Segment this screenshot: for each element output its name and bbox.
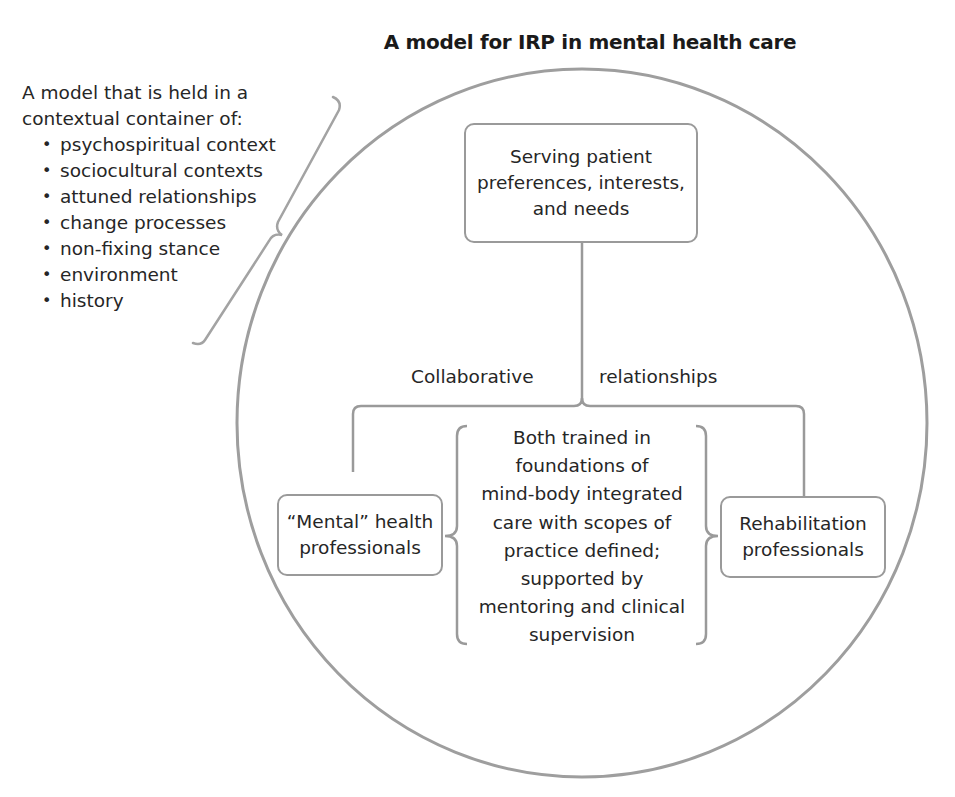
shared-training-text: Both trained in foundations of mind-body… xyxy=(470,424,694,650)
node-line: Rehabilitation xyxy=(739,511,867,537)
node-line: preferences, interests, xyxy=(477,170,685,196)
training-line: supported by xyxy=(470,565,694,593)
node-line: and needs xyxy=(533,196,630,222)
node-line: professionals xyxy=(299,535,421,561)
context-list: psychospiritual context sociocultural co… xyxy=(22,132,276,314)
context-item: non-fixing stance xyxy=(38,236,276,262)
context-intro-line1: A model that is held in a xyxy=(22,80,276,106)
node-line: “Mental” health xyxy=(287,509,433,535)
training-line: Both trained in xyxy=(470,424,694,452)
context-intro-line2: contextual container of: xyxy=(22,106,276,132)
node-patient-needs: Serving patient preferences, interests, … xyxy=(464,123,698,243)
context-item: sociocultural contexts xyxy=(38,158,276,184)
node-mental-health-professionals: “Mental” health professionals xyxy=(277,494,443,576)
context-container-text: A model that is held in a contextual con… xyxy=(22,80,276,314)
context-item: environment xyxy=(38,262,276,288)
node-line: Serving patient xyxy=(510,144,652,170)
training-line: care with scopes of xyxy=(470,509,694,537)
right-brace xyxy=(696,426,718,644)
node-line: professionals xyxy=(742,537,864,563)
connector-label-left: Collaborative xyxy=(411,366,534,387)
left-brace xyxy=(445,426,467,644)
context-item: attuned relationships xyxy=(38,184,276,210)
training-line: supervision xyxy=(470,621,694,649)
context-item: psychospiritual context xyxy=(38,132,276,158)
training-line: practice defined; xyxy=(470,537,694,565)
training-line: foundations of xyxy=(470,452,694,480)
connector-label-right: relationships xyxy=(599,366,717,387)
node-rehabilitation-professionals: Rehabilitation professionals xyxy=(720,496,886,578)
context-item: change processes xyxy=(38,210,276,236)
context-item: history xyxy=(38,288,276,314)
training-line: mentoring and clinical xyxy=(470,593,694,621)
training-line: mind-body integrated xyxy=(470,480,694,508)
